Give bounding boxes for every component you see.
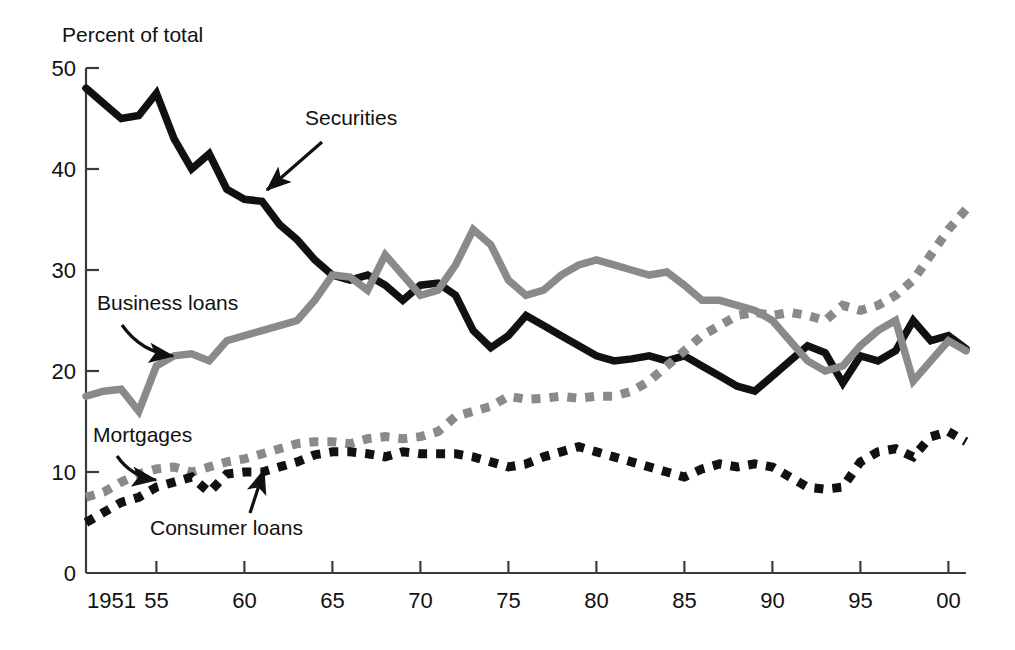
y-tick-label: 40 <box>52 157 76 182</box>
y-tick-label: 20 <box>52 359 76 384</box>
chart-figure: Percent of total 01020304050 19515560657… <box>0 0 1015 650</box>
x-tick-label: 1951 <box>87 588 136 613</box>
y-tick-label: 50 <box>52 56 76 81</box>
x-tick-label: 85 <box>672 588 696 613</box>
x-tick-label: 00 <box>936 588 960 613</box>
x-tick-label: 60 <box>232 588 256 613</box>
x-tick-label: 55 <box>144 588 168 613</box>
chart-canvas: Percent of total 01020304050 19515560657… <box>0 0 1015 650</box>
x-tick-label: 75 <box>496 588 520 613</box>
series-label-securities: Securities <box>305 106 397 129</box>
y-tick-label: 10 <box>52 460 76 485</box>
x-tick-label: 65 <box>320 588 344 613</box>
y-tick-label: 0 <box>64 561 76 586</box>
series-label-business-loans: Business loans <box>97 291 238 314</box>
y-axis-title: Percent of total <box>62 23 203 46</box>
x-tick-label: 70 <box>408 588 432 613</box>
series-label-mortgages: Mortgages <box>93 423 192 446</box>
y-tick-label: 30 <box>52 258 76 283</box>
x-tick-label: 90 <box>760 588 784 613</box>
series-label-consumer-loans: Consumer loans <box>150 516 303 539</box>
x-tick-label: 80 <box>584 588 608 613</box>
x-tick-label: 95 <box>848 588 872 613</box>
